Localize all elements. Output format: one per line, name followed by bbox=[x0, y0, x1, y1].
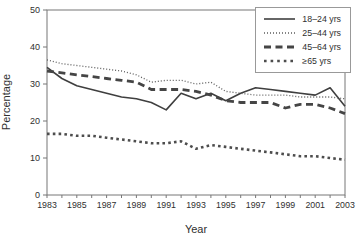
legend-label: 18–24 yrs bbox=[302, 12, 341, 26]
solid-line-icon bbox=[263, 15, 296, 23]
x-tick-label: 1987 bbox=[97, 200, 117, 210]
x-tick-label: 1985 bbox=[67, 200, 87, 210]
legend-label: 45–64 yrs bbox=[302, 40, 341, 54]
x-tick-label: 1983 bbox=[37, 200, 57, 210]
square-dotted-line-icon bbox=[263, 57, 296, 65]
x-tick-label: 2003 bbox=[335, 200, 355, 210]
x-tick-label: 1993 bbox=[186, 200, 206, 210]
legend-label: 25–44 yrs bbox=[302, 26, 341, 40]
y-tick-label: 30 bbox=[30, 79, 40, 89]
legend-item-45-64: 45–64 yrs bbox=[263, 40, 341, 54]
y-tick-label: 20 bbox=[30, 116, 40, 126]
legend: 18–24 yrs 25–44 yrs 45–64 yrs ≥65 yrs bbox=[255, 7, 351, 73]
fine-dotted-line-icon bbox=[263, 29, 296, 37]
y-tick-label: 10 bbox=[30, 153, 40, 163]
smoking-prevalence-by-age-chart: 0102030405019831985198719891991199319951… bbox=[0, 0, 357, 240]
legend-item-25-44: 25–44 yrs bbox=[263, 26, 341, 40]
x-tick-label: 1997 bbox=[246, 200, 266, 210]
legend-item-65-plus: ≥65 yrs bbox=[263, 54, 341, 68]
y-tick-label: 0 bbox=[35, 190, 40, 200]
y-axis-label: Percentage bbox=[0, 74, 12, 130]
series-line-2-thick-dashed bbox=[47, 71, 345, 114]
legend-item-18-24: 18–24 yrs bbox=[263, 12, 341, 26]
x-tick-label: 2001 bbox=[305, 200, 325, 210]
series-line-3-square-dotted bbox=[47, 134, 345, 160]
x-tick-label: 1995 bbox=[216, 200, 236, 210]
x-tick-label: 1989 bbox=[127, 200, 147, 210]
thick-dashed-line-icon bbox=[263, 43, 296, 51]
y-tick-label: 50 bbox=[30, 5, 40, 15]
legend-label: ≥65 yrs bbox=[302, 54, 331, 68]
x-tick-label: 1999 bbox=[276, 200, 296, 210]
x-tick-label: 1991 bbox=[156, 200, 176, 210]
x-axis-label: Year bbox=[47, 223, 345, 235]
y-tick-label: 40 bbox=[30, 42, 40, 52]
